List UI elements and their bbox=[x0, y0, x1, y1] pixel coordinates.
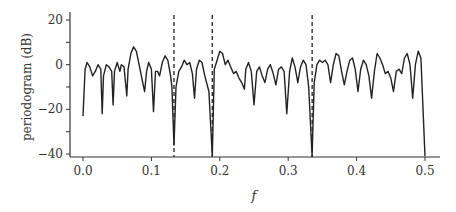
periodogram-chart: 200−20−400.00.10.20.30.40.5 f periodogra… bbox=[0, 0, 456, 212]
x-tick-label: 0.3 bbox=[279, 164, 298, 178]
y-tick-label: −40 bbox=[38, 147, 63, 161]
x-tick-label: 0.2 bbox=[210, 164, 229, 178]
y-axis-label: periodogram (dB) bbox=[20, 33, 34, 141]
x-tick-label: 0.5 bbox=[415, 164, 434, 178]
y-tick-label: −20 bbox=[38, 102, 63, 116]
y-tick-label: 20 bbox=[48, 13, 63, 27]
x-tick-label: 0.0 bbox=[73, 164, 92, 178]
periodogram-curve bbox=[83, 47, 425, 157]
x-tick-label: 0.1 bbox=[142, 164, 161, 178]
y-tick-label: 0 bbox=[55, 58, 63, 72]
x-axis-label: f bbox=[251, 188, 259, 203]
x-tick-label: 0.4 bbox=[347, 164, 366, 178]
axes: 200−20−400.00.10.20.30.40.5 bbox=[38, 12, 440, 178]
